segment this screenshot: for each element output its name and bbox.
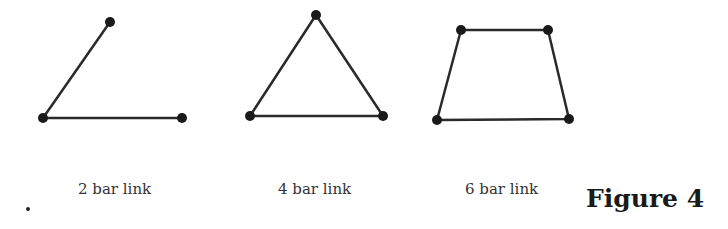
link-bar [43,22,110,118]
link-trapezoid [437,30,569,120]
joint-dot [564,114,574,124]
joint-dot [38,113,48,123]
four-bar-link-diagram [250,15,383,116]
joint-dot [311,10,321,20]
joint-dot [456,25,466,35]
figure-title: Figure 4 [586,184,704,213]
joint-dot [543,25,553,35]
two-bar-link-joints [38,17,187,123]
six-bar-link-diagram [437,30,569,120]
joint-dot [105,17,115,27]
four-bar-link-joints [245,10,388,121]
joint-dot [378,111,388,121]
joint-dot [245,111,255,121]
four-bar-link-label: 4 bar link [278,180,351,198]
six-bar-link-joints [432,25,574,125]
stray-dot-mark [26,207,30,211]
link-triangle [250,15,383,116]
two-bar-link-diagram [43,22,182,118]
joint-dot [432,115,442,125]
two-bar-link-label: 2 bar link [78,180,151,198]
joint-dot [177,113,187,123]
six-bar-link-label: 6 bar link [465,180,538,198]
